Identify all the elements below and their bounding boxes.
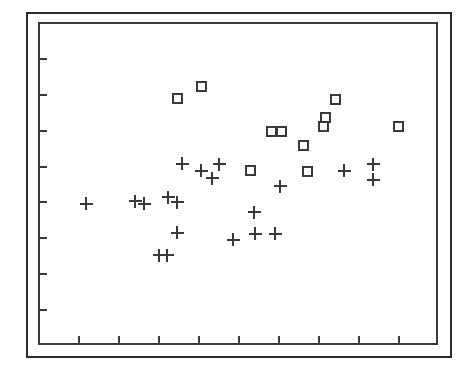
plus-marker — [367, 173, 380, 186]
plus-marker — [367, 158, 380, 171]
plus-marker — [171, 196, 184, 209]
plus-marker — [138, 197, 151, 210]
x-axis-tick — [78, 336, 80, 345]
y-axis-tick — [38, 273, 47, 275]
square-marker — [320, 112, 331, 123]
x-axis-tick — [158, 336, 160, 345]
plot-data-area — [38, 22, 438, 345]
plus-marker — [153, 249, 166, 262]
x-axis-tick — [358, 336, 360, 345]
y-axis-tick — [38, 166, 47, 168]
y-axis-tick — [38, 94, 47, 96]
plus-marker — [213, 158, 226, 171]
plus-marker — [206, 172, 219, 185]
plus-marker — [171, 226, 184, 239]
square-marker — [393, 121, 404, 132]
plus-marker — [249, 227, 262, 240]
x-axis-tick — [398, 336, 400, 345]
x-axis-tick — [198, 336, 200, 345]
plus-marker — [176, 157, 189, 170]
x-axis-tick — [278, 336, 280, 345]
plus-marker — [227, 233, 240, 246]
square-marker — [196, 81, 207, 92]
plus-marker — [338, 164, 351, 177]
y-axis-tick — [38, 130, 47, 132]
plus-marker — [274, 180, 287, 193]
plus-marker — [269, 227, 282, 240]
square-marker — [298, 140, 309, 151]
plus-marker — [195, 164, 208, 177]
x-axis-tick — [318, 336, 320, 345]
square-marker — [266, 126, 277, 137]
x-axis-tick — [118, 336, 120, 345]
y-axis-tick — [38, 309, 47, 311]
square-marker — [245, 165, 256, 176]
plus-marker — [162, 191, 175, 204]
plus-marker — [80, 197, 93, 210]
square-marker — [276, 126, 287, 137]
square-marker — [330, 94, 341, 105]
scatter-plot-figure — [0, 0, 471, 373]
square-marker — [318, 121, 329, 132]
x-axis-tick — [238, 336, 240, 345]
plus-marker — [248, 206, 261, 219]
plus-marker — [161, 249, 174, 262]
y-axis-tick — [38, 201, 47, 203]
square-marker — [172, 93, 183, 104]
y-axis-tick — [38, 58, 47, 60]
square-marker — [302, 166, 313, 177]
y-axis-tick — [38, 237, 47, 239]
plus-marker — [129, 195, 142, 208]
